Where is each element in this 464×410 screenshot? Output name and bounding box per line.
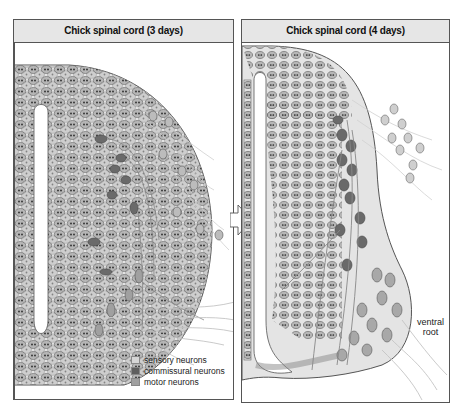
ventral-root-label: ventral root — [417, 317, 444, 337]
legend-label: motor neurons — [144, 377, 199, 387]
legend-item-motor: motor neurons — [131, 376, 225, 387]
sensory-swatch — [131, 356, 140, 364]
panel-4-days: Chick spinal cord (4 days) — [241, 19, 450, 403]
ventral-root-label-line2: root — [417, 327, 444, 337]
legend-label: sensory neurons — [144, 355, 207, 365]
commissural-swatch — [131, 367, 140, 375]
legend-label: commissural neurons — [144, 366, 225, 376]
legend-item-commissural: commissural neurons — [131, 365, 225, 376]
panel-3-days: Chick spinal cord (3 days) — [13, 19, 234, 400]
spinal-cord-3-days-illustration — [14, 20, 234, 400]
spinal-cord-4-days-illustration — [242, 20, 450, 403]
legend-item-sensory: sensory neurons — [131, 354, 225, 365]
motor-swatch — [131, 378, 140, 386]
ventral-root-label-line1: ventral — [417, 317, 444, 327]
legend: sensory neurons commissural neurons moto… — [131, 354, 225, 387]
